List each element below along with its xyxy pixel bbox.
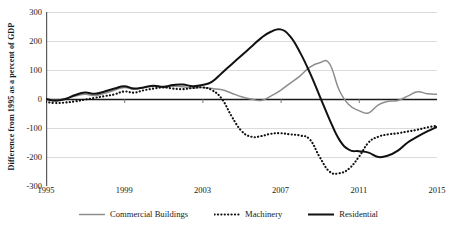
legend-label: Residential [339,210,378,219]
x-axis-tick-label: 1999 [116,186,133,195]
y-axis-tick-label: 200 [16,37,42,46]
chart-figure: Difference from 1995 as a percent of GDP… [0,0,457,239]
black-dotted-line-swatch [214,211,240,218]
y-axis-tick-label: -200 [16,153,42,162]
x-axis-tick-label: 2003 [194,186,211,195]
x-axis-tick-label: 2007 [272,186,289,195]
x-axis-tick-label: 2011 [350,186,367,195]
legend-item[interactable]: Machinery [214,210,282,219]
chart-legend: Commercial BuildingsMachineryResidential [0,210,457,219]
series-line-commercial-buildings [46,60,437,113]
y-axis-tick-labels: 3002001000-100-200-300 [4,0,42,200]
legend-item[interactable]: Residential [308,210,378,219]
legend-item[interactable]: Commercial Buildings [79,210,188,219]
y-axis-tick-label: 100 [16,66,42,75]
chart-canvas [46,12,437,186]
y-axis-tick-label: -100 [16,124,42,133]
x-axis-tick-labels: 199519992003200720112015 [0,186,457,200]
x-axis-tick-label: 1995 [38,186,55,195]
y-axis-tick-label: 300 [16,8,42,17]
gray-solid-line-swatch [79,211,105,218]
x-axis-tick-label: 2015 [429,186,446,195]
legend-label: Machinery [245,210,282,219]
plot-area [46,12,437,186]
legend-label: Commercial Buildings [110,210,188,219]
y-axis-tick-label: 0 [16,95,42,104]
black-solid-line-swatch [308,211,334,218]
